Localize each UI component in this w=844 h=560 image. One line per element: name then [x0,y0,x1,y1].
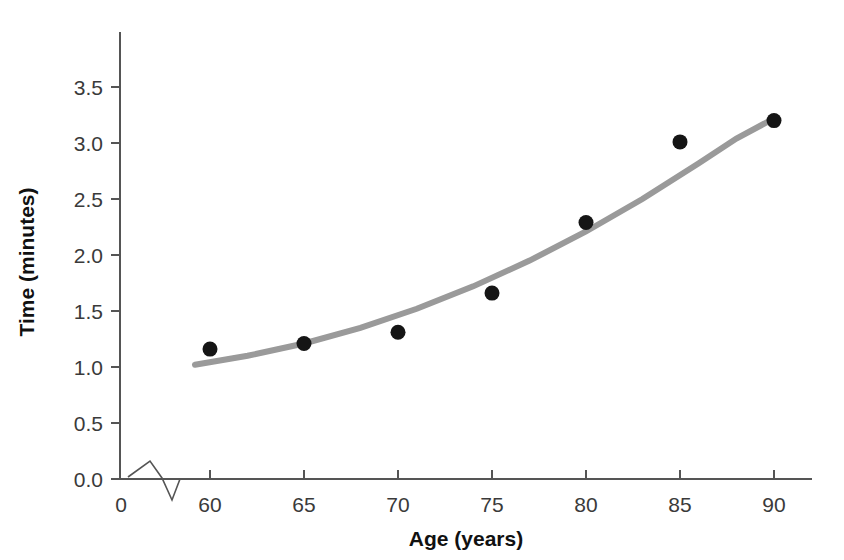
y-tick-label-2: 1.0 [74,356,103,379]
x-tick-label-60: 60 [198,493,221,516]
x-tick-label-90: 90 [762,493,785,516]
y-tick-label-5: 2.5 [74,188,103,211]
data-point [203,342,218,357]
y-tick-label-4: 2.0 [74,244,103,267]
chart-background [0,0,844,560]
y-tick-label-7: 3.5 [74,76,103,99]
y-tick-label-6: 3.0 [74,132,103,155]
data-point [391,325,406,340]
data-point [297,336,312,351]
data-point [767,113,782,128]
data-point [579,215,594,230]
x-tick-label-70: 70 [386,493,409,516]
x-tick-label-65: 65 [292,493,315,516]
x-tick-label-75: 75 [480,493,503,516]
x-axis-title: Age (years) [409,527,523,550]
data-point [673,134,688,149]
y-axis-title: Time (minutes) [15,188,38,337]
y-tick-label-3: 1.5 [74,300,103,323]
x-tick-label-80: 80 [574,493,597,516]
x-tick-label-0: 0 [115,493,127,516]
chart-canvas: 0.0 0.5 1.0 1.5 2.0 2.5 3.0 3.5 0 60 65 … [0,0,844,560]
y-tick-label-1: 0.5 [74,412,103,435]
x-tick-label-85: 85 [668,493,691,516]
data-point [485,286,500,301]
scatter-chart: 0.0 0.5 1.0 1.5 2.0 2.5 3.0 3.5 0 60 65 … [0,0,844,560]
y-tick-label-0: 0.0 [74,468,103,491]
